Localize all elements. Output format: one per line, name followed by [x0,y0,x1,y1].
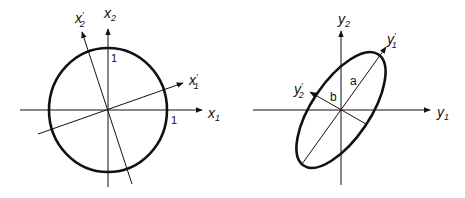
x1-tick-one: 1 [171,114,177,126]
y2-prime-axis [310,92,366,124]
y2-prime-label: y′2 [293,81,304,100]
diagram: x1 x2 x′1 x′2 1 1 y1 y2 y′1 y′2 a b [0,0,465,198]
x1-prime-axis [38,83,183,134]
semi-minor-label: b [330,90,337,104]
y1-prime-label: y′1 [386,31,397,50]
right-panel: y1 y2 y′1 y′2 a b [253,11,449,185]
y2-label: y2 [337,11,350,29]
left-panel: x1 x2 x′1 x′2 1 1 [20,5,220,187]
y1-label: y1 [436,104,449,122]
semi-major-label: a [350,74,357,88]
x2-tick-one: 1 [111,52,117,64]
x2-label: x2 [103,5,116,23]
x1-prime-label: x′1 [188,72,199,91]
x1-label: x1 [207,105,220,123]
x2-prime-axis [82,32,132,184]
x2-prime-label: x′2 [74,10,85,29]
